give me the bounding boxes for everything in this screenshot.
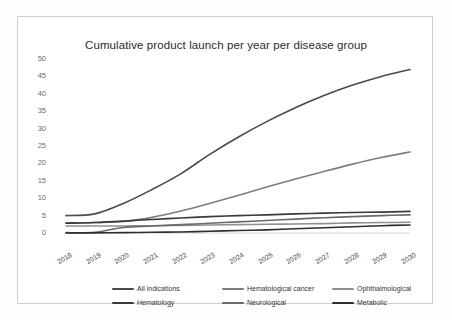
x-tick-label: 2029 (371, 251, 388, 265)
chart-figure: Cumulative product launch per year per d… (17, 16, 433, 304)
legend-label: Hematology (137, 299, 174, 307)
legend-item-ophthalmological[interactable]: Ophthalmological (332, 285, 411, 293)
legend-label: All indications (137, 285, 180, 293)
y-tick-label: 50 (24, 55, 46, 63)
legend-item-hematological-cancer[interactable]: Hematological cancer (222, 285, 314, 293)
legend-line-swatch-icon (112, 288, 134, 290)
chart-legend: All indicationsHematological cancerOphth… (42, 285, 412, 308)
series-line-ophthalmological (66, 222, 410, 226)
x-tick-label: 2018 (56, 251, 73, 265)
legend-row: All indicationsHematological cancerOphth… (42, 285, 412, 294)
y-tick-label: 15 (24, 177, 46, 185)
legend-line-swatch-icon (222, 302, 244, 304)
legend-item-hematology[interactable]: Hematology (112, 299, 174, 307)
legend-item-all-indications[interactable]: All indications (112, 285, 180, 293)
y-tick-label: 0 (24, 229, 46, 237)
legend-row: HematologyNeurologicalMetabolic (42, 299, 412, 308)
x-tick-label: 2028 (343, 251, 360, 265)
y-tick-label: 25 (24, 142, 46, 150)
x-tick-label: 2026 (285, 251, 302, 265)
legend-item-metabolic[interactable]: Metabolic (332, 299, 387, 307)
x-tick-label: 2025 (257, 251, 274, 265)
x-tick-label: 2022 (171, 251, 188, 265)
series-line-all-indications (66, 69, 410, 215)
legend-label: Ophthalmological (357, 285, 411, 293)
legend-label: Hematological cancer (247, 285, 314, 293)
x-tick-label: 2030 (400, 251, 417, 265)
x-tick-label: 2020 (113, 251, 130, 265)
legend-line-swatch-icon (112, 302, 134, 304)
x-tick-label: 2024 (228, 251, 245, 265)
x-tick-label: 2019 (85, 251, 102, 265)
y-tick-label: 40 (24, 90, 46, 98)
y-tick-label: 5 (24, 212, 46, 220)
y-tick-label: 10 (24, 194, 46, 202)
line-chart-svg (48, 41, 418, 239)
plot-area (48, 41, 418, 239)
legend-item-neurological[interactable]: Neurological (222, 299, 286, 307)
y-tick-label: 30 (24, 125, 46, 133)
legend-line-swatch-icon (332, 288, 354, 290)
legend-label: Neurological (247, 299, 286, 307)
y-tick-label: 35 (24, 107, 46, 115)
y-tick-label: 45 (24, 72, 46, 80)
legend-label: Metabolic (357, 299, 387, 307)
legend-line-swatch-icon (332, 302, 354, 304)
y-tick-label: 20 (24, 159, 46, 167)
x-tick-label: 2021 (142, 251, 159, 265)
x-tick-label: 2023 (199, 251, 216, 265)
x-axis-tick-labels: 2018201920202021202220232024202520262027… (48, 259, 428, 281)
x-tick-label: 2027 (314, 251, 331, 265)
legend-line-swatch-icon (222, 288, 244, 290)
screenshot-canvas: Cumulative product launch per year per d… (0, 0, 452, 320)
